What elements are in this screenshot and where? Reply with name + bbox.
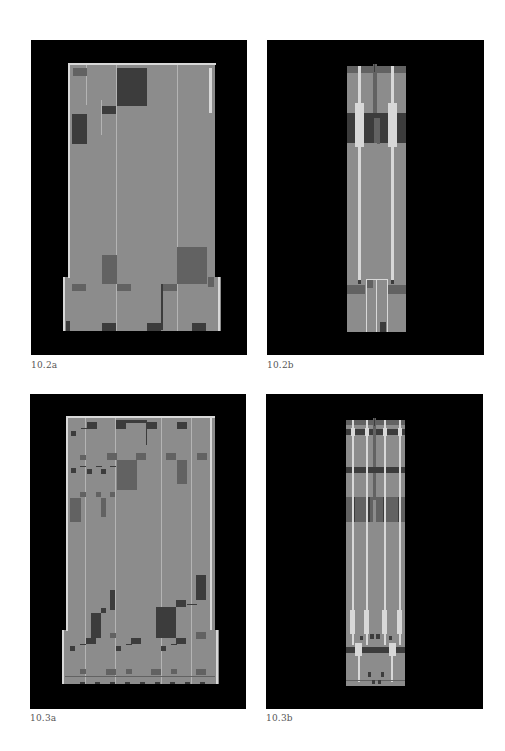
layout-block	[196, 669, 206, 675]
layout-block	[110, 682, 115, 684]
layout-block	[197, 453, 207, 460]
layout-block	[216, 630, 218, 684]
layout-block	[62, 630, 64, 684]
layout-block	[101, 469, 106, 474]
layout-block	[116, 422, 126, 429]
layout-block	[163, 284, 177, 291]
figure-caption: 10.2b	[267, 360, 294, 370]
layout-block	[161, 418, 162, 684]
layout-block	[101, 498, 106, 517]
layout-block	[374, 64, 375, 72]
layout-block	[376, 634, 380, 639]
layout-block	[110, 633, 116, 638]
layout-block	[374, 418, 375, 426]
layout-block	[374, 118, 380, 144]
layout-block	[66, 416, 215, 418]
layout-block	[200, 682, 205, 684]
layout-block	[161, 646, 166, 651]
layout-block	[101, 608, 106, 613]
layout-block	[378, 680, 381, 684]
layout-block	[358, 656, 360, 682]
figure-caption: 10.2a	[31, 360, 57, 370]
layout-block	[176, 600, 186, 607]
layout-block	[106, 669, 116, 675]
layout-block	[387, 285, 406, 294]
layout-block	[65, 676, 215, 677]
layout-block	[171, 669, 177, 674]
layout-block	[346, 680, 405, 681]
layout-block	[66, 416, 68, 631]
layout-block	[196, 632, 206, 639]
layout-block	[80, 455, 86, 460]
layout-block	[346, 467, 405, 473]
layout-block	[136, 453, 146, 460]
layout-block	[358, 280, 361, 284]
layout-block	[87, 422, 97, 429]
layout-block	[372, 680, 375, 684]
layout-block	[72, 284, 86, 291]
layout-block	[117, 68, 147, 106]
layout-block	[209, 68, 212, 113]
layout-block	[107, 453, 117, 460]
layout-block	[171, 644, 177, 645]
layout-block	[63, 277, 65, 331]
layout-block	[102, 255, 117, 284]
layout-block	[191, 418, 192, 684]
layout-block	[218, 277, 220, 331]
layout-block	[110, 466, 116, 467]
layout-block	[96, 492, 101, 497]
layout-block	[176, 638, 186, 644]
layout-block	[80, 644, 86, 645]
layout-block	[110, 590, 115, 610]
layout-block	[170, 682, 175, 684]
layout-block	[86, 638, 96, 644]
layout-block	[71, 468, 76, 473]
layout-block	[66, 321, 70, 331]
layout-block	[192, 323, 206, 331]
layout-block	[102, 106, 116, 114]
figure-caption: 10.3b	[266, 713, 293, 723]
layout-block	[80, 492, 86, 497]
layout-block	[91, 613, 101, 638]
layout-block	[368, 672, 371, 677]
layout-block	[210, 418, 212, 630]
layout-block	[177, 247, 207, 284]
layout-block	[358, 66, 361, 281]
layout-block	[187, 604, 197, 605]
layout-block	[68, 63, 216, 65]
layout-block	[373, 500, 376, 522]
figure-caption: 10.3a	[30, 713, 56, 723]
layout-block	[364, 610, 369, 634]
layout-block	[208, 277, 214, 287]
layout-block	[389, 643, 396, 656]
layout-block	[147, 422, 157, 429]
layout-block	[116, 646, 121, 651]
layout-block	[131, 638, 141, 644]
layout-block	[117, 284, 131, 291]
layout-block	[355, 103, 364, 147]
layout-block	[347, 285, 365, 294]
layout-block	[376, 279, 377, 332]
layout-block	[360, 636, 363, 640]
layout-block	[382, 610, 387, 634]
layout-block	[355, 643, 362, 656]
layout-block	[373, 143, 377, 283]
layout-block	[380, 322, 386, 332]
layout-block	[177, 65, 178, 331]
layout-block	[373, 64, 377, 119]
layout-block	[80, 682, 85, 684]
layout-block	[177, 422, 187, 429]
layout-block	[96, 466, 102, 467]
layout-block	[391, 66, 394, 281]
layout-block	[80, 669, 86, 674]
layout-block	[177, 460, 187, 484]
layout-block	[87, 469, 92, 474]
layout-block	[102, 323, 116, 331]
layout-block	[117, 460, 137, 490]
layout-block	[81, 428, 87, 429]
layout-block	[70, 498, 81, 522]
layout-block	[72, 114, 87, 144]
layout-block	[151, 669, 161, 675]
layout-block	[80, 466, 86, 467]
layout-block	[166, 453, 176, 460]
